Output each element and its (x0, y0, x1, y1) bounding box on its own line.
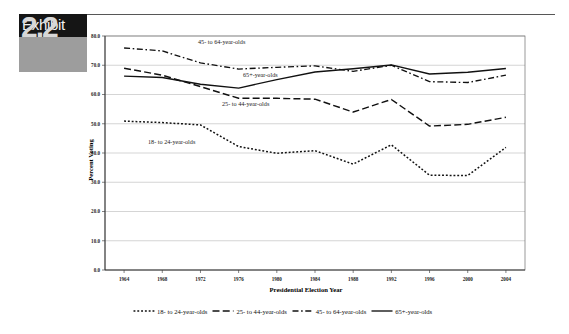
legend-item-2[interactable]: 45- to 64-year-olds (292, 307, 371, 315)
series-annotation-1: 25- to 44-year-olds (222, 100, 270, 107)
x-tick-label: 2004 (501, 276, 512, 282)
line-chart: 0.010.020.030.040.050.060.070.080.0 1964… (0, 0, 569, 300)
series-lines (124, 48, 506, 176)
x-axis-title: Presidential Election Year (270, 286, 343, 293)
x-tick-label: 1964 (119, 276, 130, 282)
y-tick-label: 70.0 (91, 62, 100, 68)
y-tick-label: 80.0 (91, 33, 100, 39)
series-line-1 (124, 68, 506, 126)
legend-swatch-2 (292, 307, 314, 315)
exhibit-page: Exhibit 2.2 0.010.020.030.040.050.060.07… (0, 0, 569, 334)
y-tick-label: 10.0 (91, 238, 100, 244)
y-tick-label: 0.0 (94, 267, 101, 273)
series-annotation-2: 45- to 64-year-olds (198, 38, 246, 45)
legend-swatch-1 (212, 307, 234, 315)
x-tick-label: 1984 (310, 276, 321, 282)
series-annotations: 18- to 24-year-olds25- to 44-year-olds45… (148, 38, 278, 145)
series-annotation-0: 18- to 24-year-olds (148, 138, 196, 145)
x-tick-label: 1968 (157, 276, 168, 282)
legend-swatch-0 (133, 307, 155, 315)
y-tick-label: 20.0 (91, 208, 100, 214)
series-line-0 (124, 121, 506, 175)
series-line-3 (124, 65, 506, 88)
legend-swatch-3 (371, 307, 393, 315)
x-tick-label: 1992 (386, 276, 397, 282)
legend-label-0: 18- to 24-year-olds (157, 308, 207, 315)
x-tick-label: 1976 (234, 276, 245, 282)
x-tick-label: 2000 (463, 276, 474, 282)
legend-item-0[interactable]: 18- to 24-year-olds (133, 307, 212, 315)
series-annotation-3: 65+-year-olds (243, 71, 278, 78)
chart-canvas: 0.010.020.030.040.050.060.070.080.0 1964… (0, 0, 569, 300)
legend-label-3: 65+-year-olds (395, 308, 432, 315)
legend-label-1: 25- to 44-year-olds (236, 308, 286, 315)
x-tick-label: 1972 (195, 276, 206, 282)
y-axis-title: Percent Voting (87, 139, 94, 181)
x-tick-label: 1988 (348, 276, 359, 282)
y-tick-label: 60.0 (91, 91, 100, 97)
x-tick-label: 1980 (272, 276, 283, 282)
chart-legend: 18- to 24-year-olds25- to 44-year-olds45… (133, 303, 443, 319)
legend-item-3[interactable]: 65+-year-olds (371, 307, 437, 315)
legend-label-2: 45- to 64-year-olds (316, 308, 366, 315)
y-tick-label: 50.0 (91, 121, 100, 127)
x-tick-label: 1996 (424, 276, 435, 282)
x-axis-ticks: 1964196819721976198019841988199219962000… (119, 270, 511, 282)
legend-item-1[interactable]: 25- to 44-year-olds (212, 307, 291, 315)
